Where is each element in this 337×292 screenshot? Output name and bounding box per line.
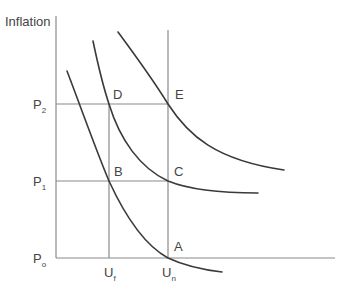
p0-label: Po — [33, 251, 47, 269]
uf-label: Uf — [104, 265, 116, 283]
short-run-curve-1 — [67, 71, 222, 272]
y-axis-label: Inflation — [5, 14, 51, 29]
un-label: Un — [162, 265, 176, 283]
point-label-a: A — [174, 239, 183, 254]
phillips-curve-diagram: Inflation P2 P1 Po Uf Un A B C D E — [0, 0, 337, 292]
short-run-curve-3 — [118, 32, 284, 170]
p2-label: P2 — [33, 97, 47, 115]
point-label-c: C — [174, 164, 183, 179]
point-label-d: D — [113, 87, 122, 102]
point-label-e: E — [175, 87, 184, 102]
p1-label: P1 — [33, 174, 47, 192]
point-label-b: B — [114, 164, 123, 179]
